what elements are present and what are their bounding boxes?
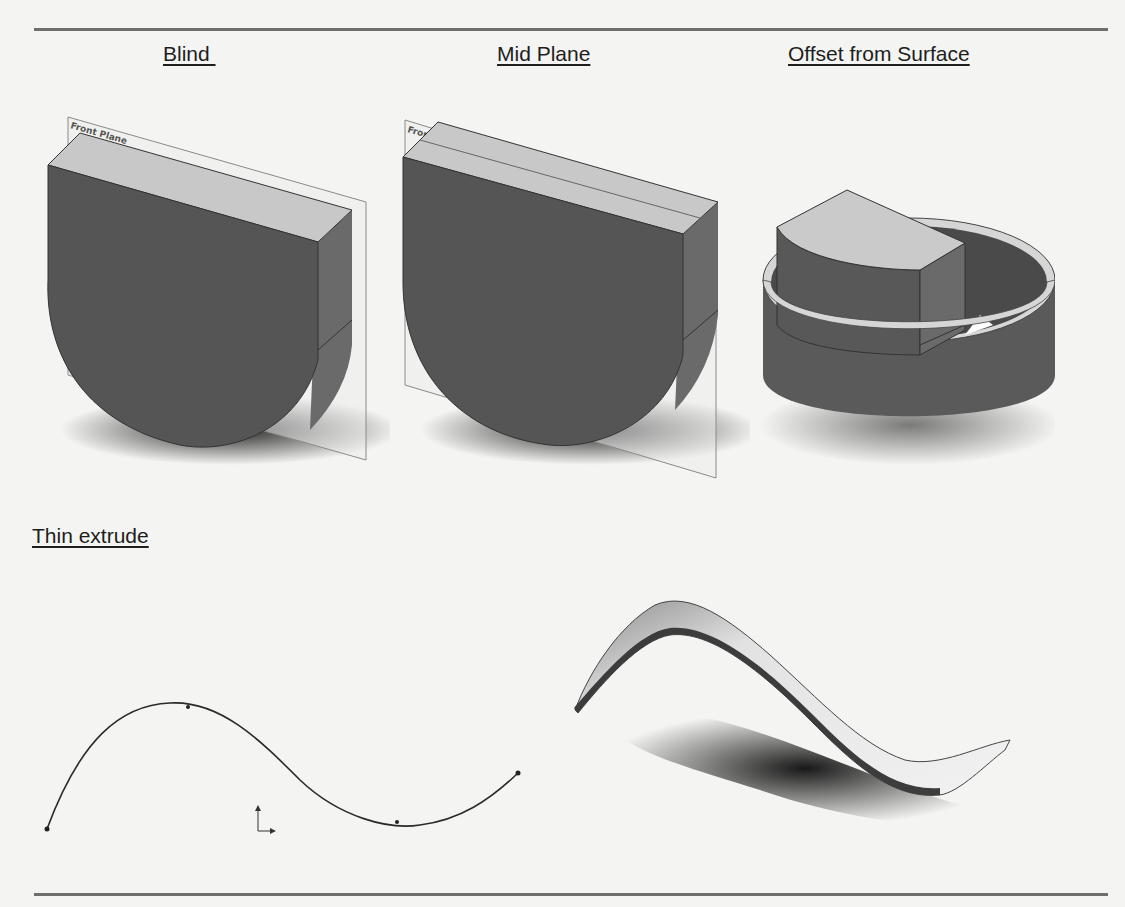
heading-blind: Blind <box>163 42 216 66</box>
blind-extrude-figure: Front Plane <box>30 100 390 480</box>
spline-endpoint <box>516 771 521 776</box>
spline-curve <box>47 703 518 829</box>
thin-extrude-result <box>560 570 1030 840</box>
heading-mid-plane: Mid Plane <box>497 42 590 66</box>
spline-endpoint <box>45 827 50 832</box>
spline-point <box>186 705 190 709</box>
origin-icon <box>255 805 276 834</box>
mid-plane-extrude-figure: Front Plane <box>390 110 750 490</box>
spline-sketch <box>20 580 560 850</box>
heading-thin-extrude: Thin extrude <box>32 524 149 548</box>
bottom-rule <box>34 893 1108 896</box>
heading-offset-from-surface: Offset from Surface <box>788 42 970 66</box>
offset-from-surface-figure <box>755 185 1055 465</box>
top-rule <box>34 28 1108 31</box>
spline-point <box>395 820 399 824</box>
